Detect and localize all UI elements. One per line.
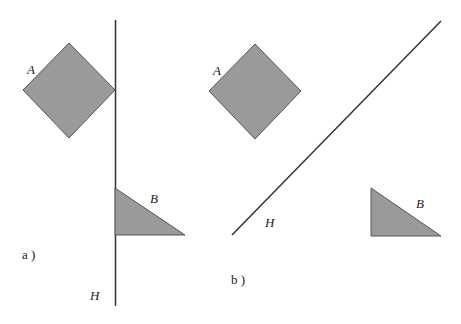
label-a: A (212, 63, 221, 78)
triangle-b (371, 188, 441, 236)
caption-a: a ) (22, 247, 35, 262)
label-h: H (264, 215, 275, 230)
caption-b: b ) (231, 272, 245, 287)
panel-a: A B H a ) (22, 20, 185, 306)
label-b: B (150, 191, 158, 206)
label-h: H (89, 288, 100, 303)
label-a: A (26, 62, 35, 77)
square-a (209, 44, 301, 139)
square-a (23, 43, 115, 138)
reflection-diagram: A B H a ) A B H b ) (0, 0, 461, 324)
label-b: B (416, 196, 424, 211)
panel-b: A B H b ) (209, 21, 441, 287)
